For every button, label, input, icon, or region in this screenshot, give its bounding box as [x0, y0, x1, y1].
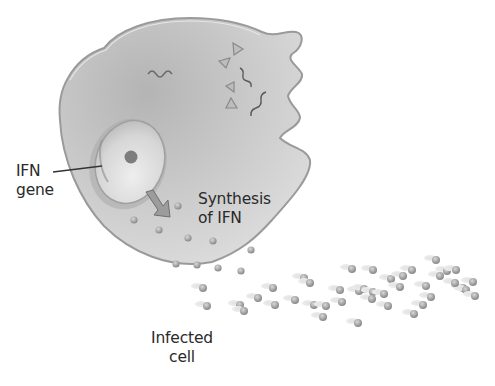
- label-ifn-gene: IFN gene: [16, 162, 54, 200]
- label-synthesis: Synthesis of IFN: [198, 190, 271, 228]
- interferon-diagram: IFN gene Synthesis of IFN Infected cell: [0, 0, 495, 386]
- label-ifn-gene-line2: gene: [16, 181, 54, 200]
- ifn-molecules-released: [191, 255, 479, 327]
- label-infected-cell-line1: Infected: [142, 329, 222, 348]
- label-ifn-gene-line1: IFN: [16, 162, 54, 181]
- label-synthesis-line1: Synthesis: [198, 190, 271, 209]
- label-infected-cell-line2: cell: [142, 348, 222, 367]
- label-synthesis-line2: of IFN: [198, 209, 271, 228]
- nucleolus: [125, 151, 138, 164]
- label-infected-cell: Infected cell: [142, 329, 222, 367]
